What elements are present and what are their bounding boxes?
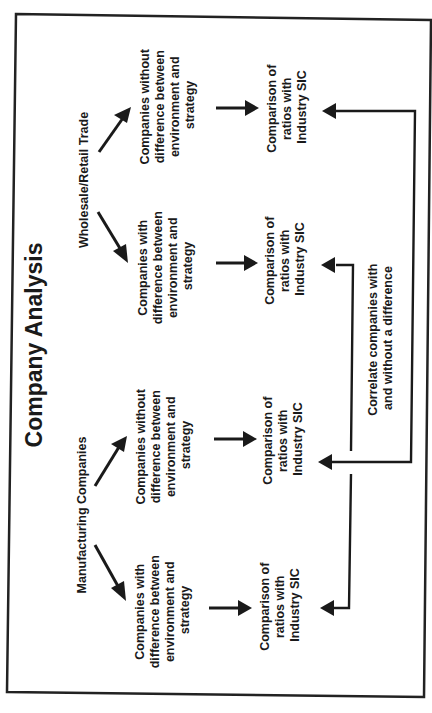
arrow-to-result-wholesale-without bbox=[216, 100, 259, 116]
diagram-title: Company Analysis bbox=[21, 243, 47, 448]
arrow-manufacturing-to-with bbox=[95, 545, 126, 601]
arrow-to-result-manufacturing-with bbox=[209, 600, 252, 616]
result-wholesale-without: Comparison of ratios with Industry SIC bbox=[265, 61, 309, 153]
arrow-wholesale-to-with bbox=[98, 212, 128, 263]
branch-wholesale-without: Companies without difference between env… bbox=[138, 46, 197, 165]
correlation-label: Correlate companies with and without a d… bbox=[366, 260, 395, 416]
arrow-to-result-manufacturing-without bbox=[214, 431, 257, 447]
company-analysis-diagram: Company Analysis Manufacturing Companies… bbox=[0, 0, 432, 713]
group-label-wholesale-retail: Wholesale/Retail Trade bbox=[77, 112, 91, 248]
group-label-manufacturing: Manufacturing Companies bbox=[75, 436, 89, 593]
result-manufacturing-without: Comparison of ratios with Industry SIC bbox=[261, 393, 305, 485]
result-wholesale-with: Comparison of ratios with Industry SIC bbox=[263, 213, 307, 305]
arrow-manufacturing-to-without bbox=[95, 436, 127, 486]
arrow-wholesale-to-without bbox=[99, 107, 131, 152]
branch-wholesale-with: Companies with difference between enviro… bbox=[136, 208, 195, 325]
connector-with-difference bbox=[320, 257, 353, 616]
branch-manufacturing-without: Companies without difference between env… bbox=[134, 386, 193, 505]
result-manufacturing-with: Comparison of ratios with Industry SIC bbox=[258, 559, 302, 651]
branch-manufacturing-with: Companies with difference between enviro… bbox=[133, 552, 192, 669]
arrow-to-result-wholesale-with bbox=[216, 255, 258, 271]
